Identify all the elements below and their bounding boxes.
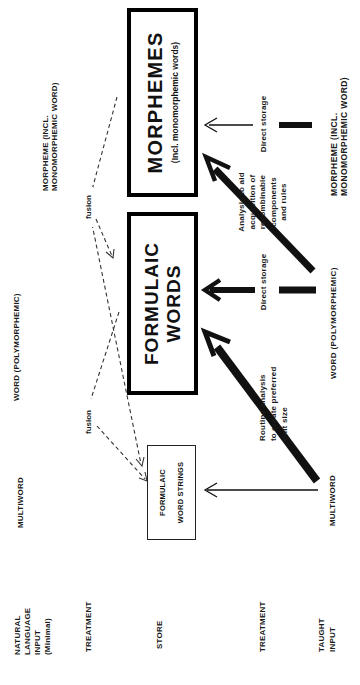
rotated-diagram: NATURAL LANGUAGE INPUT (Minimal) TREATME…: [0, 0, 360, 685]
fusion-arrow-to-strings: [97, 426, 145, 479]
morphemes-subtitle: (Incl. monomorphemic words): [170, 42, 180, 163]
box-formulaic-word-strings: FORMULAIC WORD STRINGS: [147, 445, 196, 540]
fusion-arrowhead-fwords: [106, 249, 114, 258]
fusion-label-right: fusion: [84, 187, 93, 227]
fusion-line-words-source: [91, 312, 119, 399]
row-header-treatment-lower: TREATMENT: [258, 601, 268, 652]
morphemes-title: MORPHEMES: [145, 32, 166, 174]
row-header-store: STORE: [155, 621, 165, 649]
label-routine-analysis: Routine analysis to create preferred uni…: [257, 367, 290, 442]
label-direct-storage-morpheme: Direct storage: [259, 91, 269, 157]
row-header-taught-input: TAUGHT INPUT: [317, 618, 338, 652]
label-direct-storage-word: Direct storage: [259, 249, 269, 315]
label-analysis-aid: Analysis to aid acquisition of recombina…: [237, 156, 290, 248]
fusion-label-left: fusion: [84, 402, 93, 442]
input-label-multiword: MULTIWORD: [16, 477, 26, 528]
box-morphemes: MORPHEMES (Incl. monomorphemic words): [127, 8, 198, 197]
taught-label-multiword: MULTIWORD: [328, 475, 338, 526]
row-header-natural-input: NATURAL LANGUAGE INPUT (Minimal): [13, 608, 53, 655]
scanned-figure-page: { "figure": { "colors": { "ink": "#1a1a1…: [0, 0, 360, 685]
taught-label-word: WORD (POLYMORPHEMIC): [329, 267, 339, 379]
row-header-treatment-upper: TREATMENT: [84, 601, 94, 652]
fusion-arrow-to-fwords: [96, 219, 112, 256]
box-formulaic-words: FORMULAIC WORDS: [127, 212, 198, 395]
fusion-line-morphemes-source: [92, 97, 117, 190]
input-label-morpheme: MORPHEME (INCL. MONOMORPHEMIC WORD): [41, 82, 59, 191]
taught-label-morpheme: MORPHEME (INCL. MONOMORPHEMIC WORD): [329, 77, 349, 196]
input-label-word: WORD (POLYMORPHEMIC): [12, 293, 22, 401]
